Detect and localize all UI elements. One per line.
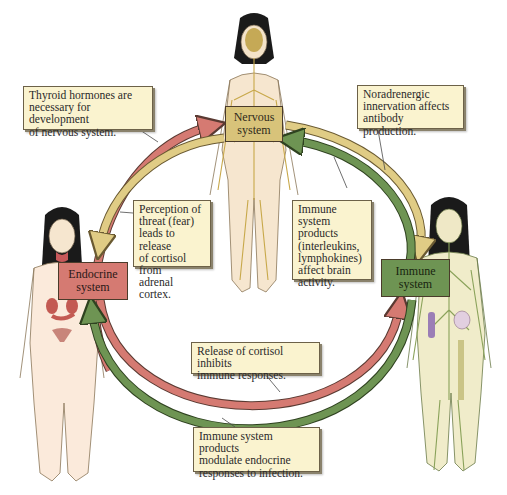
- note-cortisol-inhibits: Release of cortisol inhibits immune resp…: [191, 342, 320, 374]
- endocrine-system-box: Endocrine system: [58, 262, 128, 300]
- note-thyroid: Thyroid hormones are necessary for devel…: [23, 86, 153, 130]
- diagram-canvas: Nervous system Endocrine system Immune s…: [0, 0, 507, 495]
- immune-system-box: Immune system: [381, 259, 450, 297]
- note-immune-endocrine: Immune system products modulate endocrin…: [193, 427, 320, 472]
- endocrine-system-figure: [20, 207, 104, 481]
- note-perception: Perception of threat (fear) leads to rel…: [133, 200, 211, 267]
- nervous-system-box: Nervous system: [225, 106, 283, 142]
- nervous-system-figure: [210, 13, 298, 292]
- note-immune-brain: Immune system products (interleukins, ly…: [292, 200, 372, 280]
- note-noradrenergic: Noradrenergic innervation affects antibo…: [357, 85, 464, 129]
